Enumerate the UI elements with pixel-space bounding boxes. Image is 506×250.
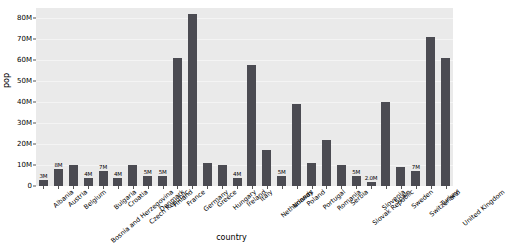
x-tick-mark — [163, 186, 164, 189]
x-tick-mark — [58, 186, 59, 189]
x-axis-title: country — [0, 233, 463, 242]
y-tick-mark — [33, 81, 36, 82]
x-tick-mark — [356, 186, 357, 189]
x-tick-label: United Kingdom — [461, 188, 506, 228]
x-tick-mark — [237, 186, 238, 189]
x-tick-mark — [207, 186, 208, 189]
y-tick-mark — [33, 123, 36, 124]
x-tick-mark — [133, 186, 134, 189]
y-tick-label: 0 — [0, 182, 32, 190]
y-tick-label: 40M — [0, 98, 32, 106]
y-tick-mark — [33, 165, 36, 166]
x-tick-mark — [252, 186, 253, 189]
x-tick-mark — [416, 186, 417, 189]
x-tick-mark — [386, 186, 387, 189]
y-tick-label: 80M — [0, 14, 32, 22]
y-tick-mark — [33, 18, 36, 19]
y-tick-label: 60M — [0, 56, 32, 64]
x-tick-mark — [431, 186, 432, 189]
y-tick-mark — [33, 186, 36, 187]
x-tick-mark — [103, 186, 104, 189]
y-tick-mark — [33, 144, 36, 145]
y-tick-mark — [33, 39, 36, 40]
x-tick-mark — [118, 186, 119, 189]
x-tick-mark — [312, 186, 313, 189]
x-tick-mark — [446, 186, 447, 189]
y-axis-ticks: 010M20M30M40M50M60M70M80M — [0, 8, 463, 186]
x-tick-mark — [341, 186, 342, 189]
y-tick-mark — [33, 102, 36, 103]
y-tick-label: 20M — [0, 140, 32, 148]
x-tick-mark — [282, 186, 283, 189]
x-tick-mark — [73, 186, 74, 189]
x-tick-mark — [43, 186, 44, 189]
x-tick-mark — [222, 186, 223, 189]
x-tick-mark — [148, 186, 149, 189]
x-tick-mark — [267, 186, 268, 189]
y-tick-label: 70M — [0, 35, 32, 43]
x-tick-mark — [88, 186, 89, 189]
x-tick-mark — [371, 186, 372, 189]
y-tick-label: 10M — [0, 161, 32, 169]
y-tick-mark — [33, 60, 36, 61]
x-tick-mark — [297, 186, 298, 189]
x-tick-mark — [177, 186, 178, 189]
y-tick-label: 50M — [0, 77, 32, 85]
x-tick-mark — [401, 186, 402, 189]
y-tick-label: 30M — [0, 119, 32, 127]
x-tick-mark — [192, 186, 193, 189]
x-tick-mark — [326, 186, 327, 189]
